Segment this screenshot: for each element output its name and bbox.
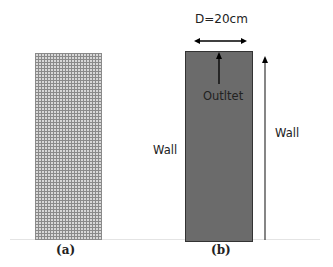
outlet-label: Outltet [203, 89, 243, 103]
caption-b: (b) [211, 243, 231, 257]
outlet-arrow-icon [216, 52, 222, 84]
wall-label-right: Wall [275, 126, 299, 140]
wall-label-left: Wall [153, 143, 177, 157]
wall-arrow-icon [262, 56, 268, 240]
